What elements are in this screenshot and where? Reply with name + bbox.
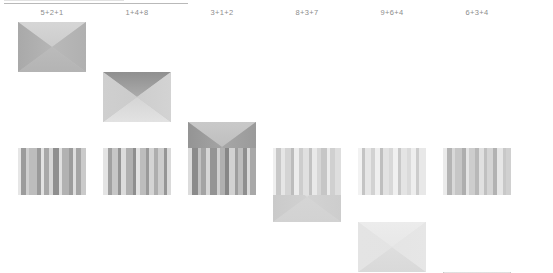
- stripe-15: [506, 148, 511, 195]
- vertical-stripe-row-tile-4: [273, 148, 341, 195]
- bowtie-gradient-row-tile-2: [103, 72, 171, 122]
- vertical-stripe-row-tile-5: [358, 148, 426, 195]
- column-header-5: 9+6+4: [358, 8, 426, 17]
- stimulus-sheet: 5+2+11+4+83+1+28+3+79+6+46+3+4 BlueBlueB…: [0, 0, 553, 273]
- column-header-6: 6+3+4: [443, 8, 511, 17]
- stripe-6: [210, 148, 217, 195]
- tile-grid: BlueBlueBlueBlueBlueBlue: [0, 0, 553, 273]
- column-header-1: 5+2+1: [18, 8, 86, 17]
- column-header-4: 8+3+7: [273, 8, 341, 17]
- stripe-15: [250, 148, 256, 195]
- stripe-11: [62, 148, 69, 195]
- bowtie-gradient-row-tile-1: [18, 22, 86, 72]
- top-rule-faint: [4, 0, 124, 1]
- stripe-15: [167, 148, 171, 195]
- vertical-stripe-row-tile-3: [188, 148, 256, 195]
- vertical-stripe-row-tile-2: [103, 148, 171, 195]
- vertical-stripe-row-tile-6: [443, 148, 511, 195]
- stripe-15: [335, 148, 341, 195]
- column-header-3: 3+1+2: [188, 8, 256, 17]
- stripe-4: [29, 148, 37, 195]
- stripe-15: [419, 148, 426, 195]
- top-rule: [4, 3, 188, 4]
- stripe-6: [126, 148, 133, 195]
- vertical-stripe-row-tile-1: [18, 148, 86, 195]
- stripe-15: [81, 148, 86, 195]
- bowtie-gradient-row-tile-5: [358, 222, 426, 272]
- column-header-2: 1+4+8: [103, 8, 171, 17]
